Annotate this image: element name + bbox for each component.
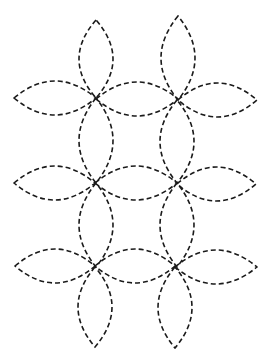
vertical-petal <box>160 100 194 183</box>
vertical-petal <box>160 183 194 267</box>
horizontal-petal <box>14 166 95 200</box>
horizontal-petal <box>96 82 178 116</box>
vertical-petal <box>79 20 113 98</box>
vertical-petal <box>79 98 113 183</box>
quilting-pattern-diagram <box>0 0 271 364</box>
horizontal-petal <box>15 249 95 283</box>
horizontal-petal <box>95 166 177 200</box>
vertical-petal <box>161 16 195 100</box>
horizontal-petal <box>175 250 257 284</box>
vertical-petal <box>158 267 192 348</box>
horizontal-petal <box>178 83 257 117</box>
horizontal-petal <box>177 167 256 201</box>
vertical-petal <box>78 267 112 347</box>
petal-group <box>14 16 257 348</box>
horizontal-petal <box>95 249 175 283</box>
horizontal-petal <box>14 81 96 115</box>
vertical-petal <box>79 183 113 267</box>
